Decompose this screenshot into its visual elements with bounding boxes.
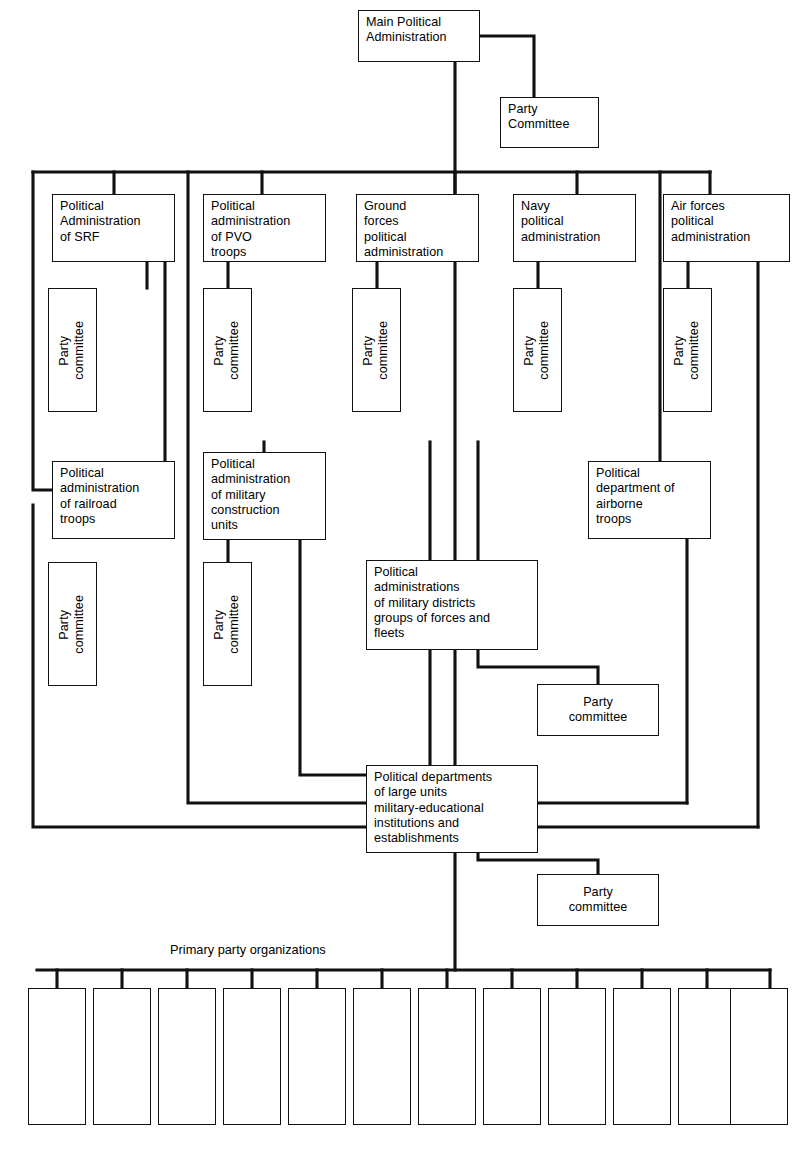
primary-party-organization-12[interactable] — [730, 988, 788, 1125]
political-administration-of-pvo-troops-label: Political administration of PVO troops — [211, 199, 290, 259]
navy-political-administration-label: Navy political administration — [521, 199, 600, 244]
party-committee-pvo[interactable]: Party committee — [203, 288, 252, 412]
political-administration-of-military-construction-units[interactable]: Political administration of military con… — [203, 452, 326, 540]
party-committee-railroad[interactable]: Party committee — [48, 562, 97, 686]
party-committee-navy[interactable]: Party committee — [513, 288, 562, 412]
party-committee-large-units-label: Party committee — [569, 885, 628, 916]
primary-party-organization-5[interactable] — [288, 988, 346, 1125]
primary-party-organization-4[interactable] — [223, 988, 281, 1125]
main-political-administration[interactable]: Main Political Administration — [358, 10, 480, 62]
party-committee-srf[interactable]: Party committee — [48, 288, 97, 412]
party-committee-railroad-label: Party committee — [57, 595, 88, 654]
party-committee-srf-label: Party committee — [57, 321, 88, 380]
political-administration-of-srf-label: Political Administration of SRF — [60, 199, 141, 244]
political-administrations-of-military-districts-label: Political administrations of military di… — [374, 565, 490, 640]
party-committee-districts[interactable]: Party committee — [537, 684, 659, 736]
party-committee-large-units[interactable]: Party committee — [537, 874, 659, 926]
connector-32 — [478, 853, 598, 874]
org-chart-canvas: Main Political AdministrationParty Commi… — [0, 0, 805, 1151]
ground-forces-political-administration[interactable]: Ground forces political administration — [356, 194, 479, 262]
party-committee-districts-label: Party committee — [569, 695, 628, 726]
primary-party-organization-1[interactable] — [28, 988, 86, 1125]
connector-31 — [478, 650, 598, 684]
party-committee-construction-label: Party committee — [212, 595, 243, 654]
primary-party-organization-8[interactable] — [483, 988, 541, 1125]
party-committee-main[interactable]: Party Committee — [500, 97, 599, 148]
primary-party-organization-10[interactable] — [613, 988, 671, 1125]
political-department-of-airborne-troops-label: Political department of airborne troops — [596, 466, 675, 526]
ground-forces-political-administration-label: Ground forces political administration — [364, 199, 443, 259]
party-committee-navy-label: Party committee — [522, 321, 553, 380]
air-forces-political-administration[interactable]: Air forces political administration — [663, 194, 790, 262]
political-administration-of-srf[interactable]: Political Administration of SRF — [52, 194, 175, 262]
party-committee-air-forces-label: Party committee — [672, 321, 703, 380]
primary-party-organization-3[interactable] — [158, 988, 216, 1125]
political-administration-of-military-construction-units-label: Political administration of military con… — [211, 457, 290, 532]
primary-party-organization-11[interactable] — [678, 988, 736, 1125]
party-committee-air-forces[interactable]: Party committee — [663, 288, 712, 412]
party-committee-ground-forces[interactable]: Party committee — [352, 288, 401, 412]
navy-political-administration[interactable]: Navy political administration — [513, 194, 636, 262]
party-committee-construction[interactable]: Party committee — [203, 562, 252, 686]
political-departments-of-large-units-label: Political departments of large units mil… — [374, 770, 492, 845]
political-administration-of-railroad-troops-label: Political administration of railroad tro… — [60, 466, 139, 526]
primary-party-organization-7[interactable] — [418, 988, 476, 1125]
political-departments-of-large-units[interactable]: Political departments of large units mil… — [366, 765, 538, 853]
primary-party-organizations-caption: Primary party organizations — [170, 942, 326, 957]
air-forces-political-administration-label: Air forces political administration — [671, 199, 750, 244]
connector-14 — [300, 540, 366, 775]
political-administrations-of-military-districts[interactable]: Political administrations of military di… — [366, 560, 538, 650]
primary-party-organization-2[interactable] — [93, 988, 151, 1125]
party-committee-pvo-label: Party committee — [212, 321, 243, 380]
political-administration-of-railroad-troops[interactable]: Political administration of railroad tro… — [52, 461, 175, 539]
political-department-of-airborne-troops[interactable]: Political department of airborne troops — [588, 461, 711, 539]
main-political-administration-label: Main Political Administration — [366, 15, 447, 44]
party-committee-main-label: Party Committee — [508, 102, 569, 131]
primary-party-organization-9[interactable] — [548, 988, 606, 1125]
political-administration-of-pvo-troops[interactable]: Political administration of PVO troops — [203, 194, 326, 262]
primary-party-organization-6[interactable] — [353, 988, 411, 1125]
party-committee-ground-forces-label: Party committee — [361, 321, 392, 380]
